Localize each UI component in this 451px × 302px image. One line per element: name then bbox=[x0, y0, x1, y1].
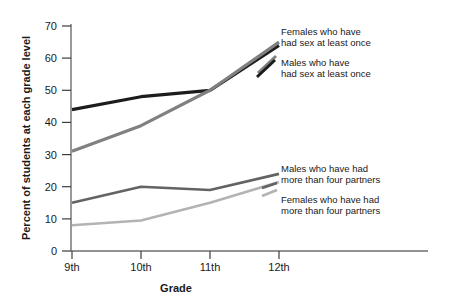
y-axis-ticks bbox=[62, 26, 71, 251]
x-tick-label: 10th bbox=[130, 261, 151, 273]
series-lines bbox=[72, 42, 279, 225]
series-line-females-sex bbox=[72, 42, 279, 151]
y-tick-label: 70 bbox=[45, 20, 57, 32]
x-tick-label: 11th bbox=[200, 261, 221, 273]
x-tick-label: 9th bbox=[64, 261, 79, 273]
x-tick-label: 12th bbox=[268, 261, 289, 273]
annotation-females-sex: Females who have had sex at least once bbox=[281, 26, 371, 48]
annotation-females-partners: Females who have had more than four part… bbox=[281, 194, 381, 216]
y-axis-title: Percent of students at each grade level bbox=[20, 36, 32, 240]
annotation-line: had sex at least once bbox=[281, 68, 371, 79]
annotation-line: Males who have had bbox=[281, 163, 368, 174]
annotation-line: had sex at least once bbox=[281, 37, 371, 48]
x-axis-ticks bbox=[72, 251, 279, 259]
y-tick-label: 30 bbox=[45, 149, 57, 161]
y-tick-label: 40 bbox=[45, 116, 57, 128]
y-tick-label: 20 bbox=[45, 181, 57, 193]
annotation-males-sex: Males who have had sex at least once bbox=[281, 57, 371, 79]
annotation-line: Males who have bbox=[281, 57, 350, 68]
series-line-males-sex bbox=[72, 45, 279, 109]
y-tick-label: 60 bbox=[45, 52, 57, 64]
annotation-line: more than four partners bbox=[281, 205, 381, 216]
leader-females-partners bbox=[262, 190, 277, 196]
x-axis-title: Grade bbox=[160, 282, 192, 294]
annotation-males-partners: Males who have had more than four partne… bbox=[281, 163, 381, 185]
chart-canvas: Percent of students at each grade level … bbox=[0, 0, 451, 302]
x-axis-tick-labels: 9th 10th 11th 12th bbox=[64, 261, 289, 273]
y-tick-label: 0 bbox=[51, 245, 57, 257]
y-tick-label: 10 bbox=[45, 213, 57, 225]
y-axis-tick-labels: 0 10 20 30 40 50 60 70 bbox=[45, 20, 57, 257]
annotation-line: Females who have had bbox=[281, 194, 379, 205]
y-tick-label: 50 bbox=[45, 84, 57, 96]
annotation-line: Females who have bbox=[281, 26, 361, 37]
series-line-males-partners bbox=[72, 174, 279, 203]
annotation-line: more than four partners bbox=[281, 174, 381, 185]
line-chart: Percent of students at each grade level … bbox=[0, 0, 451, 302]
leader-males-sex bbox=[257, 60, 275, 77]
